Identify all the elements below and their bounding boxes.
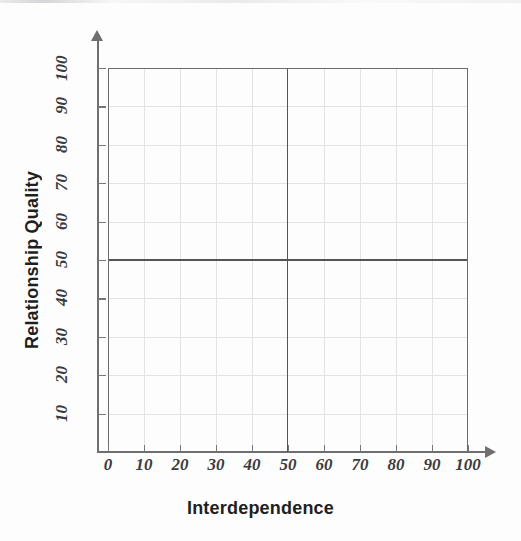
y-tick-mark	[98, 145, 106, 146]
scan-edge-artifact	[0, 0, 521, 3]
x-tick-mark	[180, 445, 181, 452]
y-tick-mark	[98, 68, 106, 69]
y-axis-title: Relationship Quality	[14, 110, 50, 410]
y-tick-mark	[98, 106, 106, 107]
quadrant-chart-figure: 0102030405060708090100 10203040506070809…	[0, 0, 521, 541]
y-tick-mark	[98, 375, 106, 376]
y-tick-mark	[98, 183, 106, 184]
x-tick-mark	[324, 445, 325, 452]
y-tick-label: 100	[32, 38, 92, 98]
x-tick-mark	[360, 445, 361, 452]
plot-border	[108, 68, 468, 452]
x-axis-title: Interdependence	[0, 498, 521, 519]
x-tick-mark	[396, 445, 397, 452]
y-tick-mark	[98, 260, 106, 261]
y-tick-mark	[98, 298, 106, 299]
x-tick-mark	[144, 445, 145, 452]
x-tick-mark	[468, 445, 469, 452]
y-tick-mark	[98, 222, 106, 223]
x-tick-label: 100	[438, 455, 498, 475]
x-tick-mark	[108, 445, 109, 452]
x-tick-mark	[432, 445, 433, 452]
x-tick-mark	[252, 445, 253, 452]
x-tick-mark	[288, 445, 289, 452]
y-axis-spine	[97, 36, 99, 453]
y-tick-mark	[98, 414, 106, 415]
y-tick-mark	[98, 337, 106, 338]
plot-area	[108, 68, 468, 452]
x-tick-mark	[216, 445, 217, 452]
y-axis-arrow-icon	[91, 30, 103, 41]
